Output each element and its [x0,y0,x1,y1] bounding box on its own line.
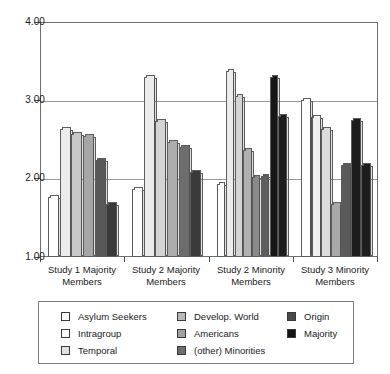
legend-swatch-icon [61,312,70,321]
legend-label: (other) Minorities [194,346,265,356]
bar [252,177,260,257]
bar [190,172,201,257]
bar-group-2 [209,22,293,257]
bar [132,189,143,257]
legend-item[interactable]: Origin [287,308,337,325]
xlabel-group-2: Study 2 Minority Members [205,264,297,287]
legend-item[interactable]: Asylum Seekers [61,308,147,325]
ytick-label-4: 4.00 [5,17,45,27]
bar [155,121,166,257]
legend-column-3: OriginMajority [287,308,337,342]
bar-group-3 [293,22,377,257]
xtick-1 [124,257,125,262]
bar [301,100,311,257]
bar-chart: 4.00 3.00 2.00 1.00 Study 1 Majority Mem… [0,0,390,374]
xlabel-line2: Members [205,276,297,288]
bar [361,165,371,257]
bar [106,204,117,257]
bar [331,204,341,257]
legend-swatch-icon [287,329,296,338]
legend-column-2: Develop. WorldAmericans(other) Minoritie… [177,308,265,359]
xtick-4 [377,257,378,262]
xtick-2 [209,257,210,262]
chart-legend: Asylum SeekersIntragroupTemporal Develop… [38,301,354,364]
legend-item[interactable]: (other) Minorities [177,342,265,359]
legend-label: Temporal [78,346,117,356]
legend-label: Asylum Seekers [78,312,147,322]
legend-item[interactable]: Develop. World [177,308,265,325]
legend-swatch-icon [287,312,296,321]
xlabel-line1: Study 1 Majority [36,264,128,276]
xtick-3 [293,257,294,262]
bar [95,160,106,257]
xlabel-line2: Members [36,276,128,288]
bar [270,77,278,257]
bar [261,176,269,257]
bar [60,129,71,257]
xlabel-line1: Study 3 Minority [289,264,381,276]
bar [48,197,59,257]
bars-layer [40,22,378,257]
legend-label: Americans [194,329,239,339]
bar [167,142,178,257]
legend-swatch-icon [61,346,70,355]
legend-item[interactable]: Temporal [61,342,147,359]
bar [341,165,351,257]
xlabel-group-1: Study 2 Majority Members [120,264,212,287]
legend-label: Intragroup [78,329,121,339]
bar [71,134,82,257]
legend-swatch-icon [61,329,70,338]
legend-swatch-icon [177,312,186,321]
legend-swatch-icon [177,346,186,355]
legend-label: Majority [304,329,337,339]
legend-column-1: Asylum SeekersIntragroupTemporal [61,308,147,359]
xlabel-group-0: Study 1 Majority Members [36,264,128,287]
legend-label: Develop. World [194,312,259,322]
bar [243,150,251,257]
bar-group-0 [40,22,124,257]
bar [179,147,190,257]
xlabel-line2: Members [289,276,381,288]
bar [278,116,286,257]
legend-item[interactable]: Intragroup [61,325,147,342]
legend-item[interactable]: Americans [177,325,265,342]
xlabel-line1: Study 2 Minority [205,264,297,276]
bar-group-1 [124,22,208,257]
ytick-label-3: 3.00 [5,95,45,105]
legend-label: Origin [304,312,329,322]
xlabel-group-3: Study 3 Minority Members [289,264,381,287]
bar [217,184,225,257]
bar [351,120,361,257]
ytick-label-1: 1.00 [5,252,45,262]
xlabel-line1: Study 2 Majority [120,264,212,276]
legend-swatch-icon [177,329,186,338]
legend-item[interactable]: Majority [287,325,337,342]
bar [235,96,243,257]
bar [321,129,331,257]
bar [144,77,155,257]
ytick-label-2: 2.00 [5,173,45,183]
xtick-0 [40,257,41,262]
bar [83,136,94,257]
xlabel-line2: Members [120,276,212,288]
